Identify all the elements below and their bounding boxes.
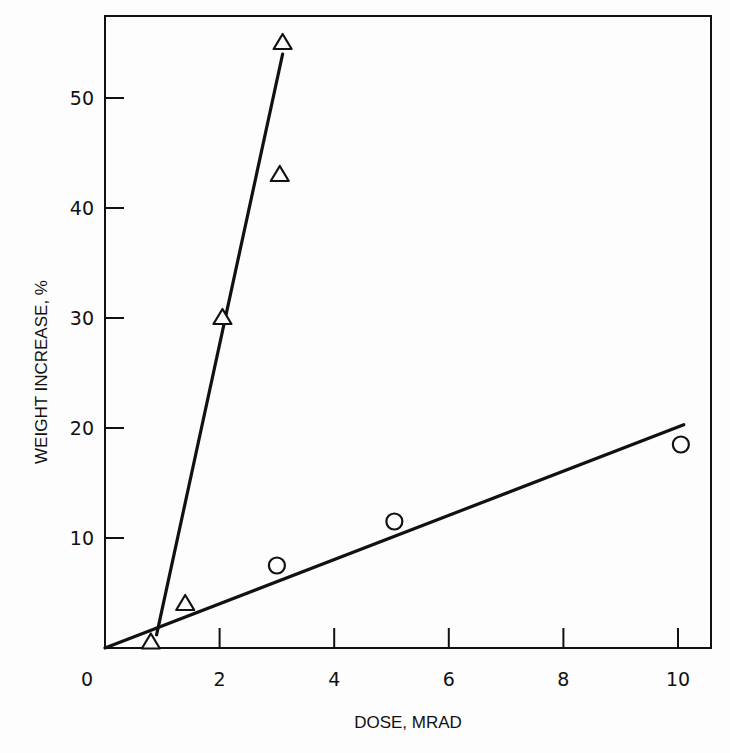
x-tick-label: 10: [666, 668, 690, 690]
y-tick-label: 50: [70, 87, 94, 109]
data-markers: [142, 34, 689, 649]
triangle-marker: [271, 166, 289, 181]
triangle-marker: [274, 34, 292, 49]
circle-marker: [386, 514, 402, 530]
y-tick-label: 30: [70, 307, 94, 329]
x-tick-label: 4: [328, 668, 340, 690]
circles-fit-line: [105, 425, 684, 648]
x-tick-label: 8: [557, 668, 569, 690]
y-axis-title: WEIGHT INCREASE, %: [32, 280, 51, 464]
plot-frame: [105, 16, 711, 648]
x-tick-label: 0: [81, 668, 93, 690]
y-axis-ticks: 1020304050: [70, 87, 124, 549]
y-tick-label: 10: [70, 527, 94, 549]
circle-marker: [673, 437, 689, 453]
x-tick-label: 2: [214, 668, 226, 690]
y-tick-label: 20: [70, 417, 94, 439]
fit-lines: [105, 54, 684, 648]
triangle-marker: [213, 309, 231, 324]
triangle-marker: [176, 595, 194, 610]
x-tick-label: 6: [443, 668, 455, 690]
y-tick-label: 40: [70, 197, 94, 219]
x-axis-title: DOSE, MRAD: [354, 713, 462, 732]
chart: 0246810 1020304050 DOSE, MRAD WEIGHT INC…: [0, 0, 730, 753]
circle-marker: [269, 558, 285, 574]
x-axis-ticks: 0246810: [81, 628, 690, 690]
triangles-fit-line: [157, 54, 283, 635]
